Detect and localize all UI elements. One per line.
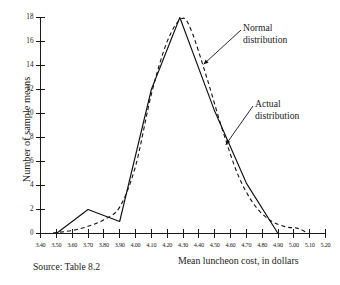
x-axis-tick-label: 3.80: [99, 242, 109, 248]
x-axis-tick-label: 4.00: [130, 242, 140, 248]
source-note: Source: Table 8.2: [33, 261, 100, 272]
chart-axes: [36, 18, 326, 239]
normal-distribution-label-line2: distribution: [243, 34, 287, 46]
x-axis-tick-label: 4.30: [178, 242, 188, 248]
actual-distribution-label-line2: distribution: [255, 110, 299, 122]
x-axis-tick-label: 4.20: [162, 242, 172, 248]
x-axis-tick-label: 3.70: [83, 242, 93, 248]
y-axis-tick-label: 0: [17, 230, 34, 237]
x-axis-tick-label: 4.70: [241, 242, 251, 248]
series-normal-distribution: [53, 18, 306, 233]
x-axis-tick-label: 4.90: [273, 242, 283, 248]
x-axis-title: Mean luncheon cost, in dollars: [178, 255, 299, 266]
x-axis-tick-label: 4.40: [194, 242, 204, 248]
x-axis-tick-label: 4.50: [210, 242, 220, 248]
series-actual-distribution: [56, 18, 278, 234]
annotation-leaders: [204, 30, 253, 145]
x-axis-tick-label: 4.60: [225, 242, 235, 248]
y-axis-tick-label: 18: [17, 14, 34, 21]
x-axis-tick-label: 5.00: [289, 242, 299, 248]
chart-series-group: [53, 18, 306, 234]
chart-figure: 3.403.503.603.703.803.904.004.104.204.30…: [0, 0, 340, 285]
actual-distribution-leader: [226, 106, 253, 145]
normal-distribution-label-line1: Normal: [243, 22, 287, 34]
x-axis-tick-label: 3.50: [51, 242, 61, 248]
y-axis-tick-label: 16: [17, 38, 34, 45]
x-axis-tick-label: 3.60: [67, 242, 77, 248]
x-axis-tick-label: 5.10: [305, 242, 315, 248]
normal-distribution-label: Normal distribution: [243, 22, 287, 45]
x-axis-tick-label: 4.10: [146, 242, 156, 248]
x-axis-tick-label: 4.80: [257, 242, 267, 248]
y-axis-tick-label: 2: [17, 206, 34, 213]
normal-distribution-leader: [204, 30, 241, 64]
x-axis-tick-label: 3.90: [115, 242, 125, 248]
actual-distribution-label: Actual distribution: [255, 98, 299, 121]
x-axis-tick-label: 5.20: [320, 242, 330, 248]
actual-distribution-label-line1: Actual: [255, 98, 299, 110]
x-axis-tick-label: 3.40: [35, 242, 45, 248]
y-axis-title: Number of sample means: [21, 55, 32, 205]
